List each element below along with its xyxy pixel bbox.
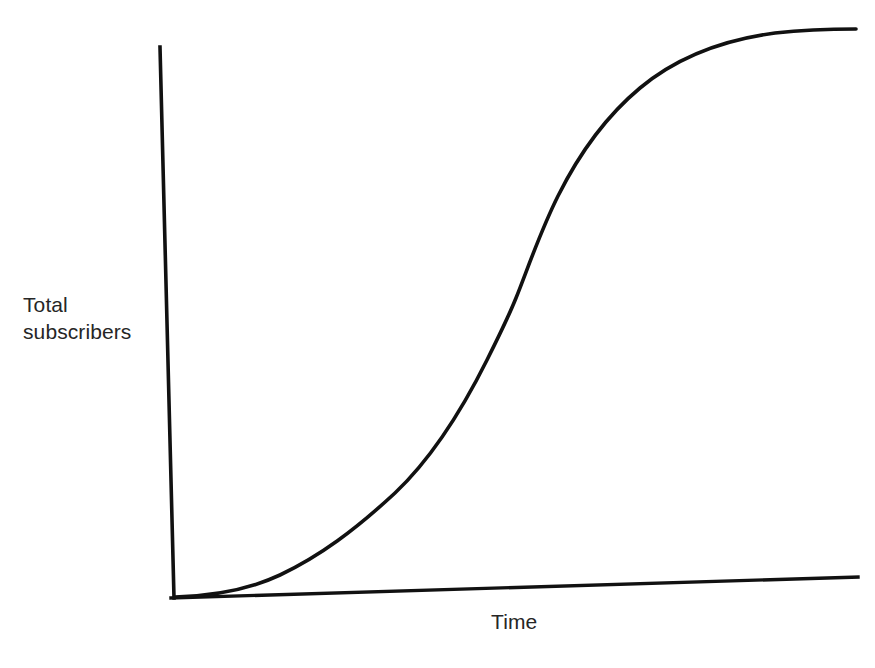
x-axis-label: Time xyxy=(491,608,537,635)
y-axis-label: Total subscribers xyxy=(23,291,131,345)
chart-container: Total subscribers Time xyxy=(0,0,875,668)
